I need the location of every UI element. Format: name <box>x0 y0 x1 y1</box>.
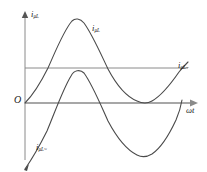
curve-lower-label-tail: ~ <box>44 146 47 152</box>
y-axis-label-sub: μL <box>33 13 39 19</box>
lower-curve-start-tip-icon <box>24 164 29 171</box>
y-axis-label: iμL <box>31 10 39 19</box>
curve-lower-label: iμL~ <box>36 143 47 152</box>
origin-label: O <box>14 95 21 105</box>
curve-upper-label-sub: μL <box>94 27 100 33</box>
reference-line-label-tail: – <box>186 64 189 70</box>
curve-upper-label: iμL <box>92 24 100 33</box>
figure-canvas: iμL iμL iμL– iμL~ O ωt <box>0 0 207 172</box>
curve-upper-magnetizing <box>25 19 188 103</box>
y-axis-arrow-icon <box>22 11 28 18</box>
reference-line-label: iμL– <box>178 61 189 70</box>
waveform-svg <box>0 0 207 172</box>
curve-lower-magnetizing <box>25 71 182 169</box>
x-axis-label: ωt <box>186 106 194 115</box>
